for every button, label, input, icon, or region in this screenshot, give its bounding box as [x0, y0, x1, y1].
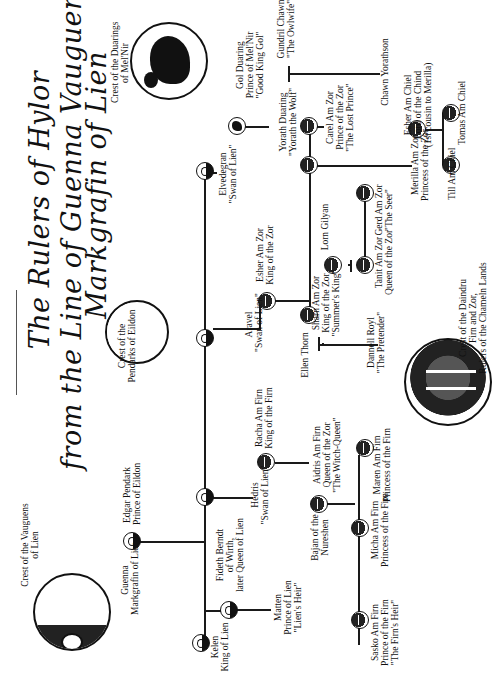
label-chawn: Chawn Yorathson: [380, 32, 390, 112]
label-micha: Micha Am Firn Princess of the Firn: [370, 490, 390, 570]
title-line-1: The Rulers of Hylor: [25, 25, 55, 395]
label-yorath: Yorath Duaring "Yorath the Wolf": [278, 82, 298, 162]
label-gol: Gol Duaring Prince of Mel'Nir "Good King…: [235, 20, 265, 110]
node-elvedegran[interactable]: [196, 162, 214, 180]
crest-daindru-label: Crest of the Daindru Firn and Zor, Ruler…: [458, 258, 488, 378]
line-chiel-children: [442, 113, 444, 165]
node-gerd[interactable]: [356, 184, 374, 202]
node-gol[interactable]: [228, 117, 246, 135]
label-kelen: Kelen King of Lien: [210, 622, 230, 672]
label-racha: Racha Am Firn King of the Firn: [254, 383, 274, 453]
label-elvedegran: Elvedegran "Swan of Lien": [218, 144, 238, 204]
link-hedris: [213, 497, 253, 499]
node-yorath-zor[interactable]: [300, 156, 318, 174]
label-esher-zor: Esher Am Zor King of the Zor: [255, 220, 275, 290]
crest-pendarks-label: Crest of the Pendarks of Eildon: [117, 306, 137, 386]
node-carel[interactable]: [300, 117, 318, 135]
label-merilla: Merilla Am Zor Princess of the Zor: [410, 120, 430, 210]
label-tanit: Tanit Am Zor Queen of the Zor: [374, 225, 394, 300]
crest-pendarks-waves: [105, 300, 169, 364]
link-gol-yorath: [244, 126, 269, 128]
node-sasko[interactable]: [351, 611, 369, 629]
link-lorn-tanit-h: [350, 260, 352, 272]
link-fideth-matten: [235, 609, 271, 611]
label-till: Till Am Chiel: [447, 150, 457, 200]
crest-vauguens-swan: [33, 573, 111, 651]
label-sharn: Sharn Am Zor King of the Zor "Summer's K…: [311, 268, 341, 338]
label-tomas: Tomas Am Chiel: [457, 90, 467, 145]
node-kelen[interactable]: [192, 634, 210, 652]
label-aravel: Aravel "Swan of Lien": [244, 297, 264, 352]
line-ellen-tick: [318, 337, 320, 351]
node-hedris[interactable]: [196, 488, 214, 506]
crest-vauguens-label: Crest of the Vauguens of Lien: [20, 500, 40, 590]
node-aravel[interactable]: [196, 329, 214, 347]
link-gundril-chawn: [288, 73, 380, 75]
link-racha-aidris: [275, 462, 309, 464]
label-dannell: Dannell Royl "The Pretender": [366, 310, 386, 375]
label-guenna: Guenna Markgrafin of Lien: [120, 545, 140, 615]
label-matten: Matten Prince of Lien "Lien's Heir": [273, 580, 303, 635]
label-aidris: Aidris Am Firn Queen of the Zor "The Wit…: [312, 415, 342, 495]
crest-duarings-horse: [130, 22, 208, 100]
label-fideth: Fideth Berndt of Wirth, later Queen of L…: [215, 515, 245, 595]
title-line-3: Markgrafin of Lien: [82, 30, 112, 340]
node-tanit[interactable]: [356, 256, 374, 274]
node-fideth[interactable]: [220, 601, 238, 619]
link-merilla: [316, 165, 412, 167]
link-gundril-vertical: [288, 66, 290, 82]
spine-line: [204, 176, 206, 644]
label-sasko: Sasko Am Firn Prince of the Firn "The Fi…: [370, 595, 400, 670]
node-micha[interactable]: [351, 519, 369, 537]
crest-duarings-label: Crest of the Duarings of Mel'Nir: [110, 23, 130, 103]
label-bajan: Bajan of the Nureshen: [310, 510, 330, 565]
label-lorn: Lorn Gilyan: [320, 202, 330, 252]
link-edgar-guenna: [140, 541, 204, 543]
label-carel: Carel Am Zor Prince of the Zor "The Lost…: [325, 80, 355, 155]
title-rule: [16, 290, 17, 395]
label-edgar: Edgar Pendark Prince of Eildon: [122, 465, 142, 525]
label-hedris: Hedris "Swan of Lien": [250, 465, 270, 525]
label-ellen: Ellen Thorn: [300, 330, 310, 380]
label-gundril: Gundril Chawn "The Owlwife": [276, 0, 296, 64]
